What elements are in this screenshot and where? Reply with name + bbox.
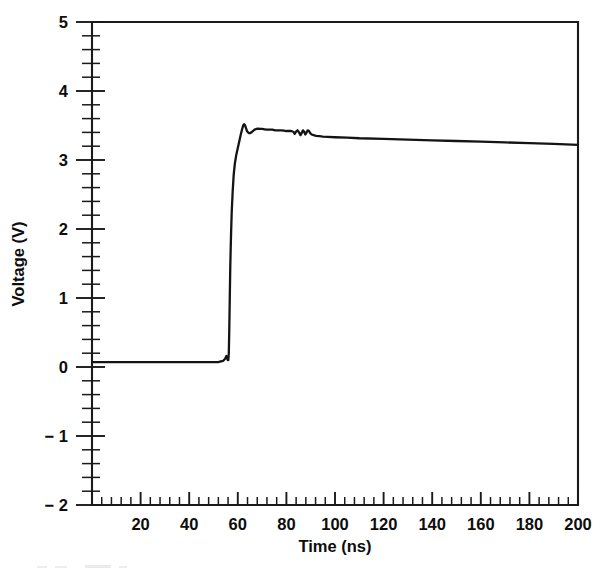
- y-tick-label: 5: [59, 13, 68, 31]
- axes-spines: [92, 22, 578, 505]
- figure-container: − 2− 1012345 20406080100120140160180200 …: [0, 0, 601, 579]
- y-tick-label: 2: [59, 220, 68, 238]
- y-tick-label: − 1: [45, 427, 68, 445]
- y-tick-label: − 2: [45, 496, 68, 514]
- y-tick-label: 0: [59, 358, 68, 376]
- x-tick-label: 200: [564, 515, 592, 533]
- y-tick-label: 1: [59, 289, 68, 307]
- y-axis-title: Voltage (V): [9, 222, 27, 307]
- data-series-line: [93, 124, 578, 362]
- y-axis-tick-labels: − 2− 1012345: [45, 13, 69, 514]
- x-tick-label: 120: [370, 515, 398, 533]
- voltage-vs-time-chart: − 2− 1012345 20406080100120140160180200 …: [0, 0, 601, 579]
- x-tick-label: 80: [277, 515, 295, 533]
- x-axis-major-ticks: [92, 492, 578, 505]
- x-tick-label: 40: [180, 515, 198, 533]
- x-tick-label: 20: [131, 515, 149, 533]
- x-tick-label: 140: [418, 515, 446, 533]
- x-tick-label: 160: [467, 515, 495, 533]
- x-axis-tick-labels: 20406080100120140160180200: [131, 515, 591, 533]
- y-axis-major-ticks: [76, 22, 105, 505]
- x-tick-label: 60: [229, 515, 247, 533]
- x-tick-label: 180: [516, 515, 544, 533]
- x-tick-label: 100: [321, 515, 349, 533]
- x-axis-title: Time (ns): [298, 537, 371, 555]
- y-tick-label: 3: [59, 151, 68, 169]
- y-tick-label: 4: [59, 82, 69, 100]
